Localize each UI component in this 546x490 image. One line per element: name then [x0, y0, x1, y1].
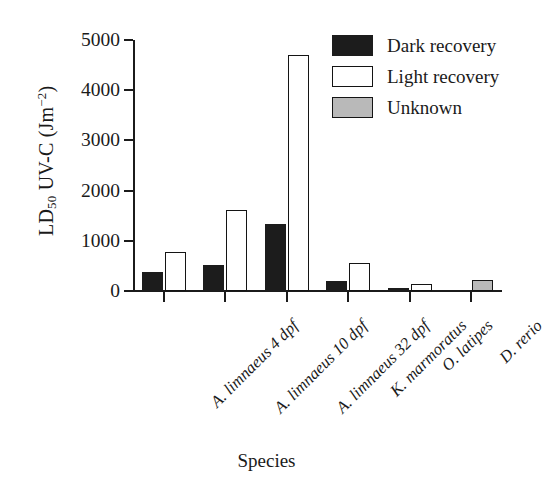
bar	[472, 280, 493, 291]
bar	[411, 284, 432, 291]
bar	[226, 210, 247, 291]
x-axis-title: Species	[0, 450, 533, 472]
bar	[326, 281, 347, 291]
legend-label: Light recovery	[387, 67, 499, 86]
legend-swatch-light	[332, 66, 373, 87]
bar	[203, 265, 224, 291]
bar	[142, 272, 163, 291]
bar	[388, 288, 409, 291]
legend-swatch-dark	[332, 35, 373, 56]
legend-item: Light recovery	[332, 61, 499, 92]
legend-item: Dark recovery	[332, 30, 499, 61]
bar	[265, 224, 286, 291]
legend-item: Unknown	[332, 92, 499, 123]
bar	[288, 55, 309, 291]
bar	[165, 252, 186, 291]
bar	[349, 263, 370, 291]
legend: Dark recoveryLight recoveryUnknown	[332, 30, 499, 123]
legend-label: Dark recovery	[387, 36, 496, 55]
legend-swatch-unknown	[332, 97, 373, 118]
legend-label: Unknown	[387, 98, 462, 117]
